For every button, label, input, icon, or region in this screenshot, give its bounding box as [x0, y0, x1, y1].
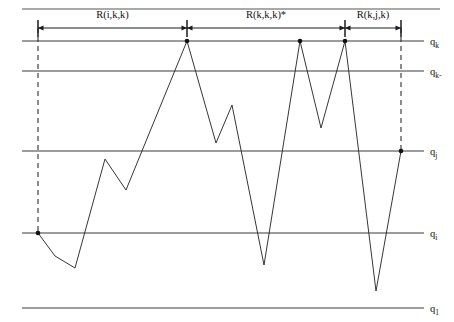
axis-label-subscript-qkm1: k-: [435, 71, 442, 80]
state-axes-group: [22, 41, 424, 308]
axis-label-subscript-qk: k: [435, 41, 439, 50]
axis-label-qi: qi: [430, 228, 437, 242]
span-arrowhead-left-r-i-k-k: [38, 25, 44, 30]
axis-label-qk: qk: [430, 36, 439, 50]
axis-label-qj: qj: [430, 146, 437, 160]
diagram-canvas: R(i,k,k)R(k,k,k)*R(k,j,k) qkqk-qjqiq1: [0, 0, 454, 322]
node-end: [399, 149, 404, 154]
dashed-guides-group: [38, 28, 401, 233]
axis-label-subscript-qi: i: [435, 233, 437, 242]
span-label-r-k-j-k: R(k,j,k): [357, 9, 390, 21]
span-arrowhead-right-r-i-k-k: [182, 25, 188, 30]
figure-container: R(i,k,k)R(k,k,k)*R(k,j,k) qkqk-qjqiq1: [0, 0, 454, 322]
random-walk-path: [38, 41, 401, 291]
axis-label-q1: q1: [430, 303, 439, 317]
span-label-r-k-k-k: R(k,k,k)*: [246, 9, 286, 21]
span-arrowhead-right-r-k-k-k: [340, 25, 346, 30]
axis-label-qkm1: qk-: [430, 66, 442, 80]
node-k2: [298, 39, 303, 44]
axis-label-subscript-q1: 1: [435, 308, 439, 317]
span-arrowhead-right-r-k-j-k: [396, 25, 402, 30]
axis-labels-group: qkqk-qjqiq1: [430, 36, 442, 317]
axis-label-subscript-qj: j: [434, 151, 437, 160]
span-arrowhead-left-r-k-k-k: [187, 25, 193, 30]
span-arrowhead-left-r-k-j-k: [345, 25, 351, 30]
node-start: [36, 231, 41, 236]
span-measure-group: R(i,k,k)R(k,k,k)*R(k,j,k): [38, 9, 401, 37]
span-label-r-i-k-k: R(i,k,k): [96, 9, 129, 21]
node-k1: [185, 39, 190, 44]
node-k3: [343, 39, 348, 44]
